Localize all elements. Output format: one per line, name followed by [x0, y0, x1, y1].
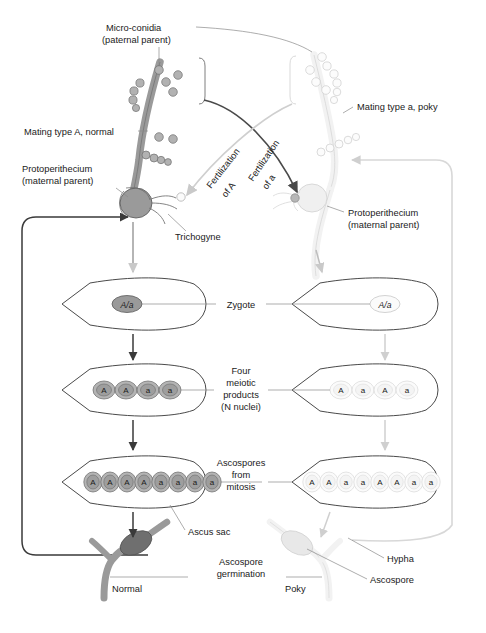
protoperithecium-right-label-line2: (maternal parent) — [348, 220, 419, 230]
ascospore-left-5: a — [176, 478, 181, 487]
ascospores-row: A A A A a a a a — [62, 456, 440, 508]
ascospore: A — [388, 472, 406, 492]
ascospore: a — [354, 472, 372, 492]
hypha-label: Hypha — [387, 554, 415, 564]
protoperithecium-right — [273, 184, 327, 212]
neurospora-lifecycle-diagram: Fertilization of A Fertilization of a Mi… — [0, 0, 486, 633]
ascospore-right-6: a — [412, 478, 417, 487]
arrow-ascospore-germination-right — [321, 512, 330, 537]
germinated-hypha-left: Normal — [92, 522, 167, 598]
nucleus: A — [374, 381, 396, 399]
ascospore: a — [405, 472, 423, 492]
fertilization-of-a-label-line1: Fertilization — [246, 138, 281, 183]
trichogyne-left — [149, 196, 177, 224]
ascospore: a — [152, 472, 170, 492]
zygote-row: A/a A/a Zygote — [62, 278, 438, 330]
protoperithecium-right-label-line1: Protoperithecium — [348, 208, 419, 218]
nucleus: a — [159, 381, 181, 399]
ascospore-left-4: a — [159, 478, 164, 487]
ascus-sac-leader — [170, 505, 185, 530]
fertilization-of-a-label-line2: of a — [260, 172, 277, 191]
zygote-label: Zygote — [227, 300, 255, 310]
figure-canvas: Fertilization of A Fertilization of a Mi… — [0, 0, 486, 633]
ascospore: a — [422, 472, 440, 492]
microconidia-label-line1: Micro-conidia — [106, 23, 162, 33]
microconidia-label-line2: (paternal parent) — [102, 35, 171, 45]
fertilizing-nucleus-right — [291, 194, 299, 202]
ascospore-germination-label-line2: germination — [217, 569, 266, 579]
ascospore-germination-label-line1: Ascospore — [219, 557, 263, 567]
meiotic-products-row: A A a a A a A a — [62, 364, 438, 416]
ascospore: A — [371, 472, 389, 492]
four-meiotic-label-line1: Four — [231, 366, 250, 376]
ascospores-label-line3: mitosis — [227, 482, 256, 492]
meiotic-right-nucleus-2: A — [382, 386, 388, 395]
ascospore-right-0: A — [309, 478, 315, 487]
parent-right-mating-type-a — [273, 53, 360, 276]
ascospore-right-2: a — [344, 478, 349, 487]
ascospore: A — [303, 472, 321, 492]
meiotic-left-nucleus-2: a — [146, 386, 151, 395]
four-meiotic-label-line2: meiotic — [226, 378, 256, 388]
protoperithecium-left-label-line1: Protoperithecium — [22, 164, 93, 174]
protoperithecium-left — [120, 188, 186, 224]
meiotic-left-nucleus-3: a — [168, 386, 173, 395]
normal-label: Normal — [112, 584, 142, 594]
zygote-left-genotype: A/a — [120, 300, 134, 310]
fertilization-of-A-label-line2: of A — [220, 180, 238, 199]
protoperithecium-right-leader — [327, 206, 344, 212]
mating-type-a-label: Mating type a, poky — [357, 102, 438, 112]
protoperithecium-left-label-line2: (maternal parent) — [22, 176, 93, 186]
nucleus: A — [115, 381, 137, 399]
meiotic-left-nucleus-0: A — [101, 386, 107, 395]
ascospore: A — [101, 472, 119, 492]
ascus-sac-label: Ascus sac — [188, 527, 231, 537]
parent-left-mating-type-A — [120, 62, 186, 224]
ascospores-label-line2: from — [232, 470, 251, 480]
ascospore: A — [135, 472, 153, 492]
poky-label: Poky — [285, 584, 306, 594]
meiotic-right-nucleus-0: A — [338, 386, 344, 395]
mating-type-A-label: Mating type A, normal — [24, 127, 114, 137]
nucleus: a — [137, 381, 159, 399]
trichogyne-label: Trichogyne — [175, 232, 221, 242]
ascospore-left-6: a — [193, 478, 198, 487]
four-meiotic-label-line4: (N nuclei) — [221, 402, 261, 412]
meiotic-right-nucleus-3: a — [405, 386, 410, 395]
ascospore: A — [320, 472, 338, 492]
ascospore-right-4: A — [377, 478, 383, 487]
ascospore-right-5: A — [394, 478, 400, 487]
ascospore-right-3: a — [361, 478, 366, 487]
ascospores-label-line1: Ascospores — [217, 458, 266, 468]
ascospore-leader — [307, 549, 367, 579]
fertilizing-nucleus-left — [177, 193, 185, 201]
ascospore: a — [203, 472, 221, 492]
bracket-right-conidia — [290, 56, 296, 104]
ascospore-label: Ascospore — [370, 575, 414, 585]
nucleus: A — [330, 381, 352, 399]
meiotic-left-nucleus-1: A — [123, 386, 129, 395]
ascospore-left-1: A — [107, 478, 113, 487]
ascospore-left-0: A — [90, 478, 96, 487]
ascospore-left-3: A — [141, 478, 147, 487]
nucleus: A — [93, 381, 115, 399]
ascospore-left-2: A — [124, 478, 130, 487]
ascospore-left-7: a — [210, 478, 215, 487]
four-meiotic-label-line3: products — [223, 390, 259, 400]
trichogyne-leader — [168, 214, 186, 231]
mating-type-a-leader — [343, 107, 353, 113]
ascospore: A — [118, 472, 136, 492]
ascospore: a — [337, 472, 355, 492]
nucleus: a — [396, 381, 418, 399]
ascospore: a — [169, 472, 187, 492]
meiotic-right-nucleus-1: a — [361, 386, 366, 395]
ascospore: a — [186, 472, 204, 492]
ascospore-right-1: A — [326, 478, 332, 487]
nucleus: a — [352, 381, 374, 399]
zygote-right-genotype: A/a — [378, 300, 392, 310]
ascospore: A — [84, 472, 102, 492]
ascospore-right-7: a — [429, 478, 434, 487]
microconidia-leader-right — [196, 27, 312, 52]
bracket-left-conidia — [199, 58, 205, 104]
